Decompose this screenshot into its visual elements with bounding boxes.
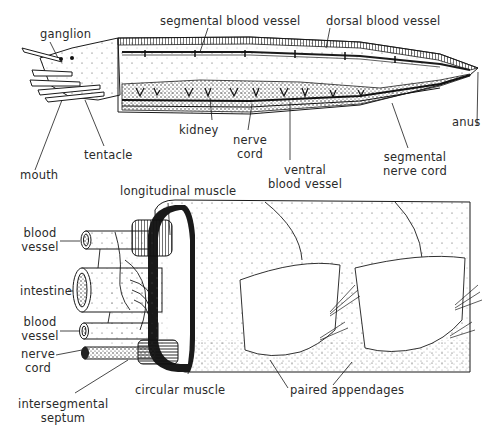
- label-circular-muscle: circular muscle: [135, 383, 225, 397]
- label-ventral-blood-vessel: ventral blood vessel: [260, 163, 350, 191]
- label-mouth: mouth: [20, 168, 58, 182]
- label-anus: anus: [452, 115, 480, 129]
- label-dorsal-blood-vessel: dorsal blood vessel: [326, 14, 440, 28]
- label-intestine: intestine: [20, 284, 72, 298]
- label-bv-top-line2: vessel: [18, 240, 62, 254]
- label-nc-bottom-line1: nerve: [18, 347, 58, 361]
- label-segmental-nerve-cord: segmental nerve cord: [375, 150, 455, 178]
- label-septum-line2: septum: [18, 411, 108, 425]
- label-tentacle: tentacle: [84, 148, 133, 162]
- label-blood-vessel-bottom: blood vessel: [18, 315, 62, 343]
- label-bv-bottom-line1: blood: [18, 315, 62, 329]
- label-septum-line1: intersegmental: [18, 397, 108, 411]
- label-nerve-cord-bottom: nerve cord: [18, 347, 58, 375]
- worm-anatomy-diagram: [0, 0, 500, 440]
- label-nc-bottom-line2: cord: [18, 361, 58, 375]
- label-blood-vessel-top: blood vessel: [18, 226, 62, 254]
- label-ganglion: ganglion: [40, 27, 91, 41]
- label-nerve-cord-top: nerve cord: [230, 133, 270, 161]
- label-nerve-cord-line2: cord: [230, 147, 270, 161]
- label-intersegmental-septum: intersegmental septum: [18, 397, 108, 425]
- label-segmental-nerve-line2: nerve cord: [375, 164, 455, 178]
- label-nerve-cord-line1: nerve: [230, 133, 270, 147]
- worm-lateral-view: [22, 37, 478, 114]
- label-bv-top-line1: blood: [18, 226, 62, 240]
- segment-cutaway: [73, 200, 482, 372]
- label-ventral-line2: blood vessel: [260, 177, 350, 191]
- label-ventral-line1: ventral: [260, 163, 350, 177]
- label-bv-bottom-line2: vessel: [18, 329, 62, 343]
- label-longitudinal-muscle: longitudinal muscle: [120, 184, 236, 198]
- label-paired-appendages: paired appendages: [290, 383, 404, 397]
- label-segmental-blood-vessel: segmental blood vessel: [160, 14, 300, 28]
- label-segmental-nerve-line1: segmental: [375, 150, 455, 164]
- label-kidney: kidney: [179, 123, 219, 137]
